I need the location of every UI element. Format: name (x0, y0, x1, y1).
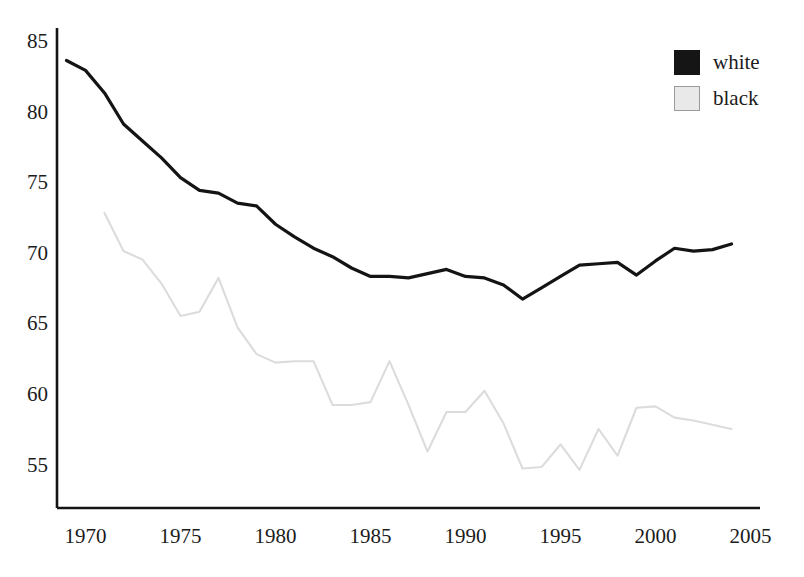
x-tick-1980: 1980 (241, 524, 311, 549)
legend-label-black: black (713, 88, 758, 109)
legend-item-white[interactable]: white (674, 44, 802, 80)
axis-lines (57, 28, 760, 508)
chart-legend: white black (674, 44, 802, 116)
series-line-black (105, 213, 732, 470)
y-tick-60: 60 (2, 382, 48, 407)
series-line-white (67, 60, 732, 299)
x-tick-1975: 1975 (146, 524, 216, 549)
line-chart: 85807570656055 1970197519801985199019952… (0, 0, 804, 577)
x-tick-2000: 2000 (621, 524, 691, 549)
y-tick-80: 80 (2, 100, 48, 125)
legend-swatch-white-icon (674, 50, 700, 75)
y-tick-55: 55 (2, 453, 48, 478)
legend-item-black[interactable]: black (674, 80, 802, 116)
x-tick-1985: 1985 (336, 524, 406, 549)
y-tick-75: 75 (2, 170, 48, 195)
x-tick-1995: 1995 (526, 524, 596, 549)
y-tick-65: 65 (2, 311, 48, 336)
x-tick-1990: 1990 (431, 524, 501, 549)
y-tick-70: 70 (2, 241, 48, 266)
series-lines (67, 60, 732, 469)
legend-swatch-black-icon (674, 86, 700, 111)
y-tick-85: 85 (2, 29, 48, 54)
legend-label-white: white (713, 52, 760, 73)
x-tick-1970: 1970 (51, 524, 121, 549)
x-tick-2005: 2005 (716, 524, 786, 549)
